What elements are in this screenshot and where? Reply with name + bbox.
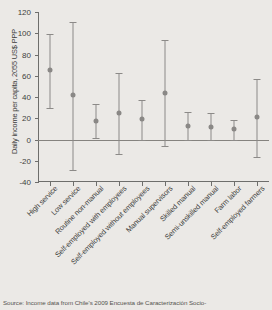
y-axis-tick-label: 80	[22, 50, 31, 59]
y-axis-tick-label: 20	[22, 114, 31, 123]
error-bar-cap	[69, 170, 76, 171]
error-bar-cap	[138, 140, 145, 141]
data-point[interactable]	[209, 124, 214, 129]
error-bar-cap	[185, 112, 192, 113]
error-bar-cap	[254, 157, 261, 158]
error-bar-cap	[208, 140, 215, 141]
error-bar-cap	[115, 73, 122, 74]
source-note: Source: Income data from Chile's 2009 En…	[3, 299, 271, 307]
error-bar-cap	[46, 34, 53, 35]
y-axis-tick-label: 60	[22, 71, 31, 80]
data-point[interactable]	[255, 115, 260, 120]
error-bar-cap	[92, 104, 99, 105]
y-axis-tick-label: 120	[18, 8, 31, 17]
y-axis-tick-label: 0	[27, 135, 31, 144]
data-point[interactable]	[93, 119, 98, 124]
error-bar-cap	[231, 120, 238, 121]
data-series	[38, 12, 269, 182]
y-axis-tick-label: -20	[19, 156, 31, 165]
data-point[interactable]	[139, 117, 144, 122]
data-point[interactable]	[70, 92, 75, 97]
error-bar-cap	[162, 146, 169, 147]
error-bar-cap	[69, 22, 76, 23]
error-bar-cap	[115, 154, 122, 155]
error-bar-cap	[138, 100, 145, 101]
chart-figure: Daily income per capita, 2055 US$ PPP -4…	[0, 0, 272, 310]
x-axis-category-labels: High serviceLow serviceRoutine non-manua…	[0, 184, 272, 288]
error-bar-cap	[46, 108, 53, 109]
data-point[interactable]	[232, 126, 237, 131]
error-bar-cap	[254, 79, 261, 80]
error-bar-cap	[185, 140, 192, 141]
data-point[interactable]	[47, 68, 52, 73]
error-bar-cap	[162, 40, 169, 41]
plot-area: -40-20020406080100120	[38, 12, 269, 182]
error-bar-cap	[208, 113, 215, 114]
y-axis-tick-label: 40	[22, 93, 31, 102]
data-point[interactable]	[163, 90, 168, 95]
error-bar-cap	[92, 138, 99, 139]
y-axis-tick: -40	[35, 182, 39, 183]
data-point[interactable]	[186, 123, 191, 128]
data-point[interactable]	[116, 110, 121, 115]
error-bar-cap	[231, 140, 238, 141]
y-axis-tick-label: 100	[18, 29, 31, 38]
